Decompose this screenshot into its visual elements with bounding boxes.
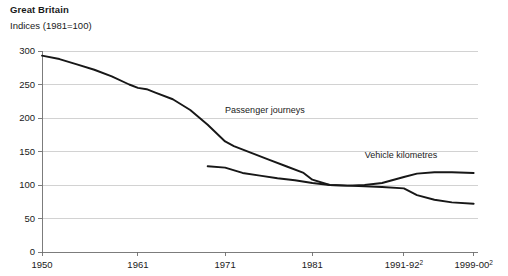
x-tick-label: 1991-922 <box>385 259 424 271</box>
x-tick-label: 1971 <box>215 259 236 270</box>
y-axis-ticks-group: 050100150200250300 <box>19 45 42 257</box>
y-tick-label: 50 <box>24 213 35 224</box>
y-tick-label: 100 <box>19 179 35 190</box>
series-line <box>208 166 474 185</box>
chart-figure: Great Britain Indices (1981=100) 0501001… <box>0 0 508 276</box>
line-chart-plot: 050100150200250300 19501961197119811991-… <box>0 0 508 276</box>
series-line <box>42 56 474 204</box>
y-tick-label: 250 <box>19 79 35 90</box>
x-tick-label: 1981 <box>302 259 323 270</box>
x-axis-ticks-group: 19501961197119811991-9221999-002 <box>31 252 493 270</box>
series-label: Vehicle kilometres <box>365 150 438 160</box>
series-label: Passenger journeys <box>225 105 305 115</box>
y-tick-label: 200 <box>19 112 35 123</box>
y-tick-label: 0 <box>30 246 35 257</box>
y-tick-label: 300 <box>19 45 35 56</box>
y-tick-label: 150 <box>19 146 35 157</box>
series-lines-group <box>42 56 474 204</box>
x-tick-label: 1961 <box>127 259 148 270</box>
x-tick-label: 1999-002 <box>454 259 493 271</box>
x-tick-label: 1950 <box>31 259 52 270</box>
